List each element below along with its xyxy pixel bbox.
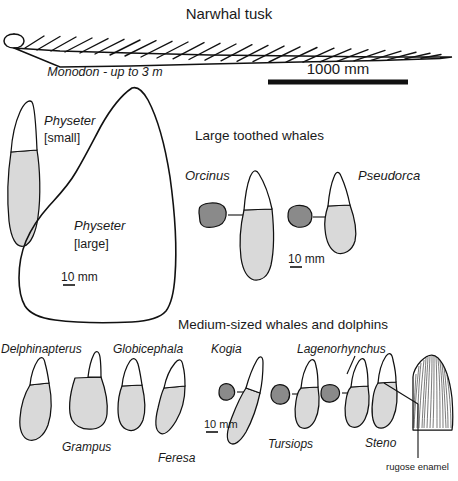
narwhal-tusk-group: Narwhal tusk [4, 5, 452, 82]
medium-scale-label: 10 mm [204, 418, 238, 430]
tursiops-cross-section [271, 385, 290, 405]
tooth-physeter-small-crown [11, 101, 37, 152]
tooth-kogia [219, 357, 263, 444]
orcinus-cross-section [199, 203, 226, 227]
tooth-grampus [70, 352, 108, 430]
globicephala-crown [122, 359, 142, 386]
tooth-steno [372, 354, 397, 428]
tooth-delphinapterus [20, 358, 51, 441]
medium-whales-group: Medium-sized whales and dolphins Delphin… [1, 317, 453, 472]
physeter-large-label-genus: Physeter [74, 218, 126, 233]
steno-label: Steno [365, 436, 397, 450]
feresa-root [156, 386, 185, 434]
lagenorhynchus-crown [351, 359, 368, 387]
pseudorca-root [325, 205, 356, 254]
tooth-tursiops [271, 360, 319, 429]
kogia-cross-section [219, 384, 235, 401]
tooth-physeter-large-outline [19, 88, 176, 323]
grampus-root [70, 377, 108, 429]
tooth-physeter-small-root [8, 150, 40, 246]
monodon-genus: Monodon - up to 3 m [47, 65, 162, 79]
kogia-crown [246, 357, 263, 393]
large-toothed-scale-label: 10 mm [288, 252, 325, 266]
rugose-enamel-annotation: rugose enamel [386, 461, 449, 472]
grampus-crown [88, 352, 101, 377]
physeter-small-label-genus: Physeter [44, 113, 96, 128]
delphinapterus-root [20, 383, 51, 440]
globicephala-root [118, 385, 145, 431]
physeter-group: Physeter [small] Physeter [large] 10 mm [8, 88, 176, 323]
delphinapterus-label: Delphinapterus [1, 342, 82, 356]
orcinus-label: Orcinus [185, 168, 230, 183]
pseudorca-cross-section [288, 205, 312, 227]
tooth-orcinus [199, 171, 273, 280]
feresa-crown [164, 360, 185, 388]
tusk-scale-bar-group: 1000 mm [268, 60, 408, 82]
medium-whales-heading: Medium-sized whales and dolphins [178, 317, 388, 332]
large-toothed-scale-bar-group: 10 mm [288, 252, 325, 267]
steno-crown [378, 354, 396, 383]
medium-scale-bar-group: 10 mm [204, 418, 238, 432]
tooth-globicephala [118, 359, 145, 431]
tusk-scale-label: 1000 mm [307, 60, 370, 77]
lagenorhynchus-root [345, 386, 369, 427]
whale-teeth-figure: Narwhal tusk [0, 0, 458, 481]
kogia-label: Kogia [211, 342, 242, 356]
large-toothed-whales-group: Large toothed whales Orcinus Pseudorca 1… [185, 128, 420, 280]
tursiops-crown [301, 360, 318, 388]
globicephala-label: Globicephala [113, 342, 183, 356]
figure-canvas: Narwhal tusk [0, 0, 458, 481]
tooth-feresa [156, 360, 185, 434]
tooth-pseudorca [288, 172, 356, 253]
narwhal-tusk-title: Narwhal tusk [186, 5, 273, 22]
physeter-large-label-qualifier: [large] [74, 237, 109, 251]
pseudorca-crown [328, 172, 350, 206]
pseudorca-label: Pseudorca [358, 168, 420, 183]
physeter-scale-bar-group: 10 mm [61, 270, 98, 285]
grampus-label: Grampus [62, 440, 111, 454]
physeter-small-label-qualifier: [small] [44, 131, 80, 145]
feresa-label: Feresa [158, 451, 196, 465]
lagenorhynchus-cross-section [321, 385, 340, 403]
tursiops-label: Tursiops [268, 437, 313, 451]
tooth-lagenorhynchus [321, 359, 369, 428]
orcinus-root [240, 209, 273, 280]
physeter-scale-label: 10 mm [61, 270, 98, 284]
large-toothed-whales-heading: Large toothed whales [195, 128, 324, 143]
monodon-caption: Monodon - up to 3 m [47, 65, 162, 79]
lagenorhynchus-label: Lagenorhynchus [297, 342, 386, 356]
orcinus-crown [244, 171, 272, 210]
delphinapterus-crown [30, 358, 49, 385]
tusk-spiral-ridges [25, 36, 441, 62]
tursiops-root [295, 387, 319, 428]
